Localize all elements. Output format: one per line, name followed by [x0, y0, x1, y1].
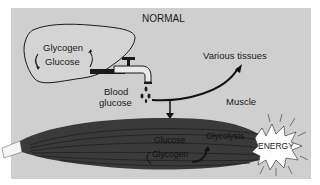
blood-glucose-label-line1: Blood	[104, 87, 128, 97]
arrowhead-muscle-icon	[166, 113, 174, 119]
liver-glucose-label: Glucose	[45, 57, 80, 67]
energy-label: ENERGY	[258, 142, 294, 151]
water-drops-icon	[141, 87, 151, 104]
muscle-label: Muscle	[226, 97, 256, 107]
various-tissues-label: Various tissues	[203, 51, 267, 61]
muscle-glycogen-label: Glycogen	[152, 150, 188, 159]
faucet-icon	[114, 57, 152, 84]
liver-glycogen-label: Glycogen	[43, 43, 83, 53]
glycolysis-label: Glycolysis	[206, 132, 244, 141]
diagram-title: NORMAL	[142, 14, 185, 24]
muscle-shape	[2, 118, 265, 169]
blood-glucose-label-line2: glucose	[99, 98, 132, 108]
muscle-glucose-label: Glucose	[154, 136, 185, 145]
